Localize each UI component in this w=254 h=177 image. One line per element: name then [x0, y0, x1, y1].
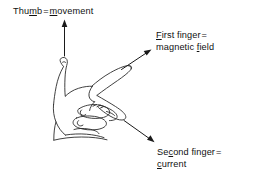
second-finger-text: ond finger [173, 147, 215, 157]
first-finger-upper-edge [92, 66, 132, 96]
movement-text-post: ovement [57, 6, 93, 16]
thumb-outline [60, 57, 67, 96]
magnetic-text: magnetic [156, 42, 197, 52]
thumb-knuckle-crease [63, 62, 66, 63]
label-second-finger-current: Second finger=current [157, 147, 223, 170]
arrow-to-first-finger-label [122, 50, 152, 70]
hand-heel-curve [54, 122, 56, 140]
curled-finger-crease-1 [80, 110, 86, 115]
current-text-post: urrent [162, 159, 187, 169]
first-finger-equals-sign: = [201, 30, 208, 40]
wrist-lower-edge [54, 137, 107, 140]
palm-inner-contour [89, 86, 95, 101]
thumb-equals-sign: = [42, 6, 49, 16]
field-text-post: ield [199, 42, 214, 52]
second-text-pre: Se [157, 147, 168, 157]
arrow-to-thumb-label [62, 20, 68, 57]
knuckle-detail-hatch-3 [101, 107, 104, 108]
thumb-left-edge [54, 67, 64, 105]
thumb-mnemonic-m: m [29, 6, 37, 16]
curled-finger-crease-2 [77, 121, 83, 126]
second-finger-equals-sign: = [215, 147, 222, 157]
palm-outer-edge [53, 105, 65, 136]
thumb-index-web [65, 86, 92, 96]
label-first-finger-magnetic-field: First finger=magnetic field [156, 30, 214, 53]
arrow-to-second-finger-label [124, 121, 155, 143]
flemings-left-hand-rule-figure: Thumb=movement First finger=magnetic fie… [0, 0, 254, 177]
thumb-text-pre: Thu [13, 6, 29, 16]
curled-finger-lower [74, 128, 99, 133]
first-finger-text: irst finger [162, 30, 201, 40]
label-thumb-movement: Thumb=movement [13, 6, 93, 18]
